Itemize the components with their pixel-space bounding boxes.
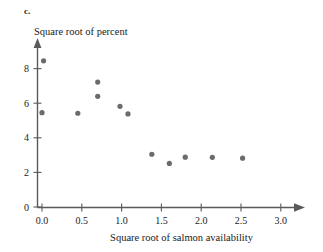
data-point [117,104,122,109]
x-tick-label: 1.5 [155,215,168,226]
y-tick-label: 8 [24,63,29,74]
data-point [183,155,188,160]
y-axis-arrowhead [34,38,42,48]
y-tick-label: 4 [24,132,29,143]
y-tick-label: 0 [24,202,29,213]
x-tick-label: 0.0 [36,215,49,226]
data-point [75,111,80,116]
data-point [125,111,130,116]
axes-group [34,38,305,212]
x-tick-label: 3.0 [275,215,288,226]
data-point [240,156,245,161]
x-tick-label: 2.5 [235,215,248,226]
data-point [95,94,100,99]
y-tick-label: 6 [24,98,29,109]
y-tick-label: 2 [24,167,29,178]
data-point [167,161,172,166]
x-axis-title: Square root of salmon availability [0,232,323,244]
data-points-layer [39,58,245,166]
data-point [210,155,215,160]
x-tick-label: 0.5 [76,215,89,226]
y-tick-group: 02468 [24,63,42,212]
scatter-plot-figure: c. Square root of percent 02468 0.00.51.… [0,0,323,252]
x-tick-label: 1.0 [115,215,128,226]
data-point [41,58,46,63]
data-point [39,110,44,115]
plot-canvas: 02468 0.00.51.01.52.02.53.0 [0,0,323,252]
x-tick-label: 2.0 [195,215,208,226]
x-axis-arrowhead [294,203,305,211]
data-point [149,152,154,157]
x-axis-title-text: Square root of salmon availability [70,232,253,243]
data-point [95,79,100,84]
